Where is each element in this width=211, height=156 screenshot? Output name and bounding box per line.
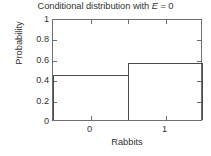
x-tick-mark-top-0 bbox=[91, 20, 92, 24]
x-tick-label-0: 0 bbox=[87, 124, 92, 134]
x-axis-label: Rabbits bbox=[52, 137, 202, 147]
y-tick-mark-0_8 bbox=[53, 40, 57, 41]
y-axis-tick-labels: 0 0.2 0.4 0.6 0.8 1 bbox=[0, 19, 49, 121]
y-tick-label-0_4: 0.4 bbox=[3, 75, 49, 85]
y-tick-label-1: 1 bbox=[3, 14, 49, 24]
y-tick-label-0_6: 0.6 bbox=[3, 55, 49, 65]
y-tick-label-0_8: 0.8 bbox=[3, 34, 49, 44]
x-tick-mark-top-1 bbox=[166, 20, 167, 24]
x-tick-mark-top-0_5 bbox=[128, 20, 129, 24]
x-axis-tick-labels: 0 1 bbox=[0, 124, 211, 137]
bar-rabbits-1 bbox=[128, 63, 203, 120]
plot-area bbox=[52, 19, 202, 121]
y-tick-mark-right-0_6 bbox=[197, 61, 201, 62]
x-tick-label-1: 1 bbox=[162, 124, 167, 134]
y-tick-mark-0_6 bbox=[53, 61, 57, 62]
chart-title-prefix: Conditional distribution with bbox=[38, 1, 152, 11]
chart-figure: Conditional distribution with E = 0 Prob… bbox=[0, 0, 211, 156]
bar-rabbits-0 bbox=[53, 75, 129, 120]
y-tick-mark-right-0_8 bbox=[197, 40, 201, 41]
y-tick-label-0_2: 0.2 bbox=[3, 96, 49, 106]
chart-title-suffix: = 0 bbox=[158, 1, 174, 11]
chart-title: Conditional distribution with E = 0 bbox=[0, 1, 211, 11]
